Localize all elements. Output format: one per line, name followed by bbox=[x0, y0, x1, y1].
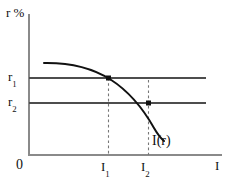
r2-subscript: 2 bbox=[12, 104, 16, 114]
i1-subscript: 1 bbox=[105, 169, 109, 179]
x-tick-label-i2: I2 bbox=[141, 160, 150, 173]
investment-demand-chart: r % r1 r2 0 I1 I2 I I(r) bbox=[0, 0, 228, 190]
point-r1-i1 bbox=[106, 76, 111, 81]
chart-canvas bbox=[0, 0, 228, 190]
y-tick-label-r2: r2 bbox=[8, 95, 17, 108]
r1-subscript: 1 bbox=[12, 79, 16, 89]
x-axis-label: I bbox=[215, 159, 219, 172]
origin-label: 0 bbox=[16, 158, 23, 172]
y-axis-label: r % bbox=[6, 6, 24, 19]
point-r2-i2 bbox=[146, 101, 151, 106]
x-tick-label-i1: I1 bbox=[101, 160, 110, 173]
y-tick-label-r1: r1 bbox=[8, 70, 17, 83]
curve-label: I(r) bbox=[152, 134, 171, 148]
i2-subscript: 2 bbox=[145, 169, 149, 179]
